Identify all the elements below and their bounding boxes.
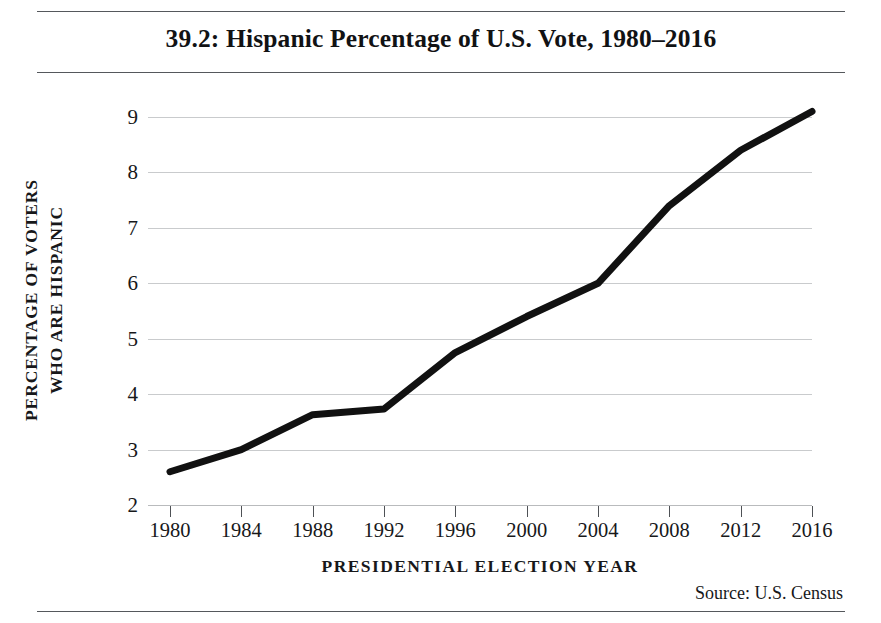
source-note: Source: U.S. Census xyxy=(695,583,843,604)
y-axis-title-line1: PERCENTAGE OF VOTERS xyxy=(19,179,44,421)
hispanic-vote-line xyxy=(170,111,812,471)
y-axis-title-line2: WHO ARE HISPANIC xyxy=(44,179,69,421)
chart-plot-area: 98765432 1980198419881992199620002004200… xyxy=(0,0,881,623)
x-axis-title: PRESIDENTIAL ELECTION YEAR xyxy=(148,556,812,577)
line-series-layer xyxy=(0,0,881,623)
figure-bottom-rule xyxy=(37,611,845,612)
y-axis-title: PERCENTAGE OF VOTERS WHO ARE HISPANIC xyxy=(19,179,70,421)
